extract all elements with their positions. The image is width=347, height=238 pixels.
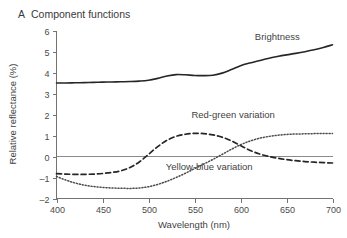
x-axis-title: Wavelength (nm) <box>158 219 230 230</box>
y-tick-label: 0 <box>44 153 49 163</box>
figure-panel-a: A Component functions –2–10123456 400450… <box>0 0 347 238</box>
x-tick-label: 650 <box>280 205 295 215</box>
y-tick-label: 3 <box>44 90 49 100</box>
series-label: Brightness <box>255 31 300 42</box>
series-annotations: BrightnessRed-green variationYellow-blue… <box>166 31 300 172</box>
series-line-brightness <box>57 45 333 83</box>
y-tick-label: 6 <box>44 27 49 37</box>
series-label: Yellow-blue variation <box>166 161 253 172</box>
x-tick-label: 700 <box>326 205 341 215</box>
y-axis-ticks: –2–10123456 <box>39 27 56 205</box>
series-label: Red-green variation <box>191 109 274 120</box>
x-tick-label: 400 <box>50 205 65 215</box>
panel-letter: A <box>18 8 25 20</box>
y-tick-label: 2 <box>44 111 49 121</box>
x-tick-label: 450 <box>96 205 111 215</box>
y-tick-label: –2 <box>39 195 49 205</box>
page-title: Component functions <box>31 8 130 20</box>
line-chart: –2–10123456 400450500550600650700 Relati… <box>0 0 347 238</box>
y-axis-title: Relative reflectance (%) <box>7 64 18 165</box>
x-tick-label: 550 <box>188 205 203 215</box>
y-tick-label: 5 <box>44 48 49 58</box>
x-axis-ticks: 400450500550600650700 <box>50 199 341 215</box>
y-tick-label: 1 <box>44 132 49 142</box>
x-tick-label: 600 <box>234 205 249 215</box>
y-tick-label: 4 <box>44 69 49 79</box>
y-tick-label: –1 <box>39 174 49 184</box>
x-tick-label: 500 <box>142 205 157 215</box>
